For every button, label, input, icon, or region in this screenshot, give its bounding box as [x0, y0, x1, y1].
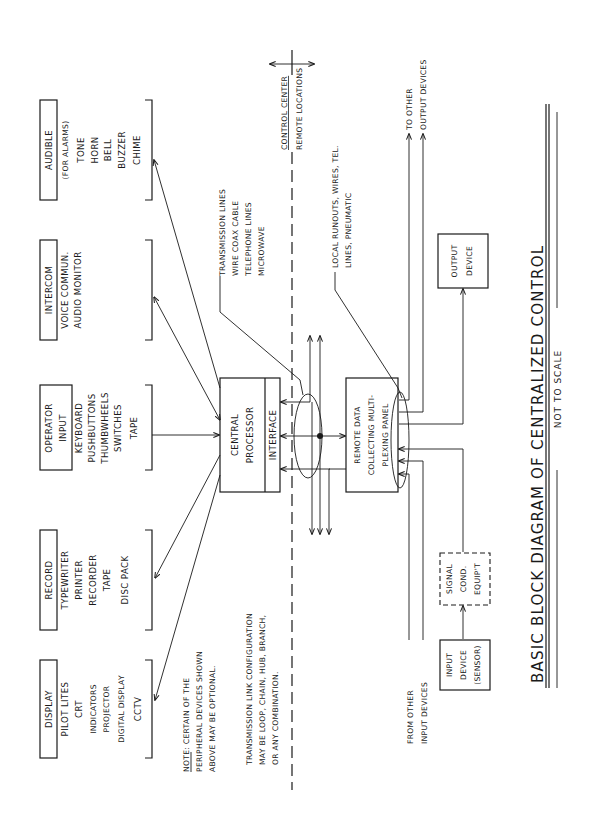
record-bracket [145, 530, 152, 630]
arrow-to-record [155, 455, 220, 578]
audible-block: AUDIBLE (FOR ALARMS) TONE HORN BELL BUZZ… [40, 100, 152, 200]
output-device-box [438, 234, 488, 288]
record-block: RECORD TYPEWRITER PRINTER RECORDER TAPE … [40, 530, 152, 630]
record-line: TYPEWRITER [60, 551, 70, 611]
record-line: DISC PACK [120, 556, 130, 605]
transmission-lines-note: TRANSMISSION LINES WIRE COAX CABLE TELEP… [218, 189, 303, 395]
transmission-links [281, 336, 346, 534]
signal-cond-label: COND. [459, 566, 468, 593]
display-line: PILOT LITES [60, 682, 70, 737]
remote-panel-label: REMOTE DATA [353, 406, 362, 464]
local-runouts-leader [335, 272, 402, 398]
note-line: ABOVE MAY BE OPTIONAL. [208, 665, 217, 772]
link-config-line: TRANSMISSION LINK CONFIGURATION [245, 613, 254, 766]
audible-line: BUZZER [117, 131, 127, 169]
intercom-block: INTERCOM VOICE COMMUN. AUDIO MONITOR [40, 240, 152, 340]
to-other-output-arrow [399, 134, 423, 412]
transmission-lines-line: MICROWAVE [257, 226, 266, 276]
transmission-lines-line: WIRE COAX CABLE [231, 201, 240, 276]
interface-label: INTERFACE [268, 410, 278, 461]
remote-panel-block: REMOTE DATA COLLECTING MULTI- PLEXING PA… [346, 378, 398, 492]
remote-inputs [399, 449, 463, 640]
operator-input-block: OPERATOR INPUT KEYBOARD PUSHBUTTONS THUM… [40, 385, 152, 470]
signal-cond-label: EQUIP'T [473, 563, 482, 595]
transmission-lines-line: TRANSMISSION LINES [218, 189, 227, 277]
operator-line: KEYBOARD [74, 403, 84, 453]
arrow-intercom-bidirectional [154, 297, 220, 420]
operator-heading: OPERATOR [44, 403, 54, 452]
intercom-bracket [145, 240, 152, 340]
record-heading: RECORD [44, 560, 54, 599]
input-device-label: (SENSOR) [473, 645, 482, 685]
transmission-lines-leader [220, 276, 303, 395]
display-line: INDICATORS [89, 684, 98, 734]
control-center-label: CONTROL CENTER [280, 75, 289, 150]
from-other-input-arrow [399, 461, 423, 640]
intercom-heading: INTERCOM [44, 266, 54, 315]
link-down-arrow [329, 469, 346, 534]
display-block: DISPLAY PILOT LITES CRT INDICATORS PROJE… [40, 660, 152, 758]
to-other-outputs-label: TO OTHER [405, 88, 414, 131]
display-line: PROJECTOR [102, 685, 111, 732]
from-other-input-arrow [399, 474, 409, 640]
input-device-block: INPUT DEVICE (SENSOR) [440, 640, 490, 690]
from-other-inputs-label: FROM OTHER [406, 690, 415, 744]
audible-line: BELL [103, 139, 113, 162]
audible-heading: AUDIBLE [44, 130, 54, 170]
link-config-line: MAY BE LOOP, CHAIN, HUB, BRANCH, [258, 615, 267, 765]
audible-line: CHIME [132, 135, 142, 165]
display-line: DIGITAL DISPLAY [117, 675, 126, 743]
intercom-line: VOICE COMMUN. [60, 251, 70, 328]
audible-line: TONE [76, 137, 86, 163]
operator-bracket [145, 385, 152, 470]
input-device-label: DEVICE [459, 650, 468, 680]
diagram-title-block: BASIC BLOCK DIAGRAM OF CENTRALIZED CONTR… [529, 104, 563, 688]
processor-label: CENTRAL [230, 414, 240, 456]
arrow-to-audible [154, 160, 220, 388]
intercom-line: AUDIO MONITOR [73, 251, 83, 328]
signal-cond-label: SIGNAL [445, 564, 454, 594]
operator-line: TAPE [129, 417, 139, 441]
audible-line: (FOR ALARMS) [61, 120, 70, 179]
diagram-subtitle: NOT TO SCALE [553, 350, 563, 428]
operator-line: SWITCHES [113, 404, 123, 452]
link-config-line: OR ANY COMBINATION. [271, 671, 280, 765]
record-line: RECORDER [88, 554, 98, 605]
output-device-label: DEVICE [465, 246, 474, 276]
operator-line: THUMBWHEELS [100, 392, 110, 464]
diagram-title: BASIC BLOCK DIAGRAM OF CENTRALIZED CONTR… [529, 245, 547, 683]
boundary-indicator: CONTROL CENTER REMOTE LOCATIONS [270, 50, 314, 150]
remote-locations-label: REMOTE LOCATIONS [295, 68, 304, 150]
peripheral-optional-note: NOTE: CERTAIN OF THE PERIPHERAL DEVICES … [182, 651, 217, 772]
link-configuration-note: TRANSMISSION LINK CONFIGURATION MAY BE L… [245, 613, 280, 766]
display-bracket [145, 660, 152, 758]
display-line: CRT [74, 700, 84, 718]
from-other-inputs-label: INPUT DEVICES [420, 682, 429, 744]
central-processor-block: CENTRAL PROCESSOR INTERFACE [220, 378, 280, 492]
output-device-label: OUTPUT [450, 245, 459, 278]
local-runouts-label: LINES, PNEUMATIC [344, 193, 353, 268]
block-diagram: AUDIBLE (FOR ALARMS) TONE HORN BELL BUZZ… [0, 0, 589, 819]
operator-line: PUSHBUTTONS [87, 394, 97, 463]
signal-cond-block: SIGNAL COND. EQUIP'T [440, 553, 490, 605]
to-other-outputs-label: OUTPUT DEVICES [419, 59, 428, 130]
transmission-lines-line: TELEPHONE LINES [244, 202, 253, 277]
display-line: CCTV [133, 697, 143, 722]
to-other-output-arrow [399, 134, 409, 400]
input-device-label: INPUT [445, 653, 454, 677]
peripheral-connections [152, 160, 220, 700]
note-line: NOTE: CERTAIN OF THE [182, 678, 191, 772]
audible-bracket [145, 100, 152, 200]
remote-panel-label: PLEXING PANEL [381, 403, 390, 466]
processor-label: PROCESSOR [245, 407, 255, 464]
output-device-block: OUTPUT DEVICE [438, 234, 488, 288]
record-line: TAPE [102, 569, 112, 593]
local-runouts-label: LOCAL RUNOUTS, WIRES, TEL. [331, 145, 340, 268]
record-line: PRINTER [74, 560, 84, 600]
display-heading: DISPLAY [44, 690, 54, 728]
note-line: PERIPHERAL DEVICES SHOWN [195, 651, 204, 772]
operator-heading: INPUT [58, 414, 68, 442]
remote-panel-label: COLLECTING MULTI- [367, 395, 376, 476]
audible-line: HORN [90, 136, 100, 163]
